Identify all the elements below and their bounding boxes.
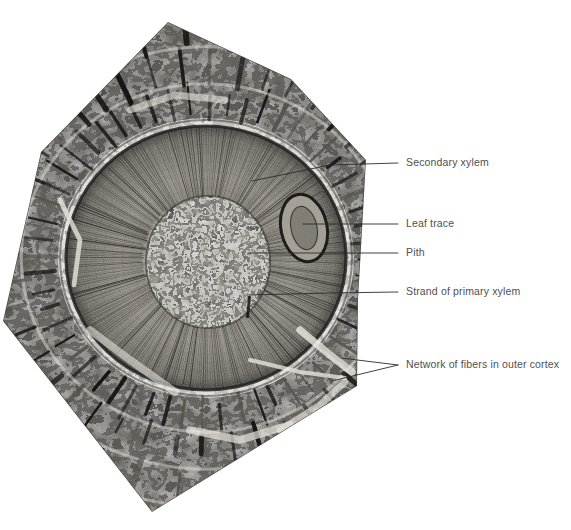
leader-lines xyxy=(0,0,571,530)
leader-fibers-upper xyxy=(341,358,398,365)
leader-strand-primary xyxy=(249,292,398,295)
label-strand-of-primary-xylem: Strand of primary xylem xyxy=(406,286,520,297)
leader-fibers-lower xyxy=(332,365,398,381)
figure-canvas: Secondary xylemLeaf tracePithStrand of p… xyxy=(0,0,571,530)
label-network-of-fibers: Network of fibers in outer cortex xyxy=(406,359,559,370)
label-secondary-xylem: Secondary xylem xyxy=(406,157,489,168)
label-pith: Pith xyxy=(406,247,425,258)
leader-secondary-xylem xyxy=(252,163,398,181)
label-leaf-trace: Leaf trace xyxy=(406,218,454,229)
